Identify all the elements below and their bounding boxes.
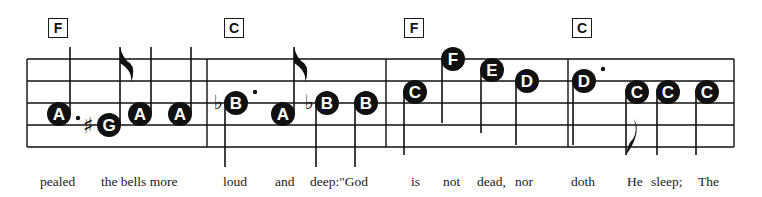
note-b: B♭ [213,90,257,167]
lyric: sleep; [651,174,683,190]
chord-box-2: C [224,18,244,38]
note-letter: A [53,105,65,124]
note-letter: E [486,61,497,80]
lyric: dead, [477,174,506,190]
note-letter: B [230,94,242,113]
note-f: F [441,47,465,123]
note-b: B♭ [304,90,339,167]
note-b: B [354,91,378,167]
sharp-icon: ♯ [83,113,94,138]
note-c: C [403,80,427,155]
flat-icon: ♭ [304,90,313,114]
chord-box-1: F [48,18,68,38]
note-letter: C [409,83,421,102]
notes: AG♯AAB♭AB♭BCFEDDCCC [47,47,719,167]
note-d: D [572,67,605,145]
chord-box-3: F [404,18,424,38]
lyric: doth [571,174,595,190]
note-letter: A [134,105,146,124]
note-letter: A [174,105,186,124]
dot [253,90,257,94]
lyric: loud [223,174,247,190]
flat-icon: ♭ [213,90,222,114]
lyric: and [275,174,295,190]
note-letter: D [521,72,533,91]
lyric: pealed [40,174,75,190]
note-letter: C [662,83,674,102]
note-c: C [625,80,649,155]
note-letter: B [360,94,372,113]
lyric: the bells more [101,174,177,190]
note-c: C [656,80,680,155]
eighth-flag [120,47,133,83]
note-d: D [515,69,539,145]
note-letter: C [701,83,713,102]
note-e: E [480,58,504,133]
dot [76,116,80,120]
dot [601,67,605,71]
note-letter: A [277,105,289,124]
note-letter: C [631,83,643,102]
music-staff: AG♯AAB♭AB♭BCFEDDCCC [0,0,762,197]
lyric: is [411,174,420,190]
lyric: The [698,174,719,190]
note-letter: G [102,116,115,135]
lyric: deep:"God [310,174,368,190]
eighth-flag [294,47,307,83]
note-letter: B [321,94,333,113]
note-letter: D [578,72,590,91]
chord-box-4: C [572,18,592,38]
lyric: nor [515,174,533,190]
lyric: He [627,174,643,190]
lyric: not [443,174,460,190]
note-letter: F [448,50,458,69]
note-c: C [695,80,719,155]
